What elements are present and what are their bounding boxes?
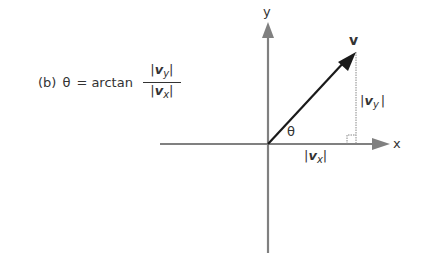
fraction-denominator: |vx| bbox=[149, 83, 174, 103]
theta-symbol: θ bbox=[62, 75, 70, 90]
part-label: (b) bbox=[38, 75, 56, 90]
vector-symbol: v bbox=[308, 148, 316, 163]
x-axis-label: x bbox=[393, 136, 401, 151]
abs-bar: | bbox=[323, 148, 327, 163]
right-angle-marker bbox=[347, 135, 356, 144]
angle-label: θ bbox=[287, 124, 295, 139]
vector-symbol: v bbox=[364, 93, 372, 108]
fraction-numerator: |vy| bbox=[149, 62, 174, 82]
subscript: y bbox=[373, 99, 379, 110]
vector-symbol: v bbox=[155, 62, 163, 77]
vy-label: |vy| bbox=[360, 93, 385, 110]
vector-v bbox=[268, 60, 346, 144]
equals-arctan: = arctan bbox=[76, 75, 133, 90]
y-axis-label: y bbox=[263, 4, 271, 19]
abs-bar: | bbox=[381, 93, 385, 108]
vector-symbol: v bbox=[155, 83, 163, 98]
arctan-formula: (b) θ = arctan |vy| |vx| bbox=[38, 62, 181, 103]
abs-bar: | bbox=[169, 83, 173, 98]
y-axis-arrowhead-icon bbox=[262, 22, 274, 38]
vx-label: |vx| bbox=[304, 148, 327, 165]
vector-label: v bbox=[349, 32, 358, 48]
fraction: |vy| |vx| bbox=[143, 62, 181, 103]
abs-bar: | bbox=[169, 62, 173, 77]
vector-arrowhead-icon bbox=[338, 52, 356, 71]
x-axis-arrowhead-icon bbox=[372, 138, 390, 150]
